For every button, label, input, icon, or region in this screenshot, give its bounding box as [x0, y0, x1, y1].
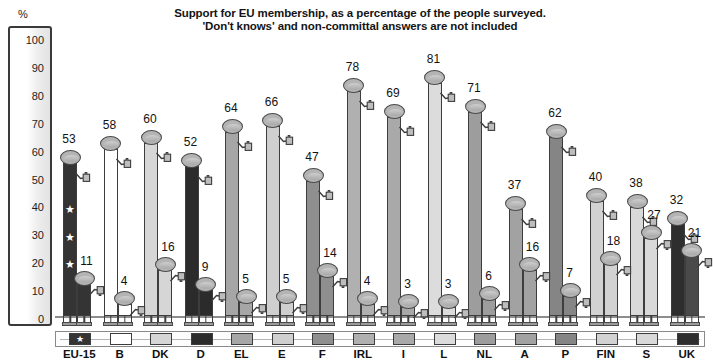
- country-group-NL[interactable]: 716: [464, 26, 505, 326]
- legend-item-P[interactable]: [555, 333, 577, 345]
- thumbs-up-icon-D: [197, 175, 213, 186]
- country-group-EL[interactable]: 645: [221, 26, 262, 326]
- legend-label-DK: DK: [152, 348, 169, 360]
- thumbs-down-icon-E: [292, 303, 308, 314]
- thumbs-up-icon-B: [116, 158, 132, 169]
- legend-label-B: B: [116, 348, 124, 360]
- star-icon: ★: [65, 232, 75, 242]
- support-head-icon-DK: [141, 130, 162, 145]
- support-value-B: 58: [103, 118, 116, 132]
- support-bar-EL[interactable]: [225, 132, 239, 316]
- against-head-icon-EU-15: [74, 271, 95, 286]
- legend-item-FIN[interactable]: [596, 333, 618, 345]
- thumbs-down-icon-FIN: [616, 265, 632, 276]
- support-head-icon-F: [303, 168, 324, 183]
- legend-item-EU-15[interactable]: ★: [69, 333, 91, 345]
- support-bar-D[interactable]: [185, 166, 199, 316]
- chart-title-line-1: Support for EU membership, as a percenta…: [150, 7, 570, 20]
- support-head-icon-P: [546, 124, 567, 139]
- country-group-DK[interactable]: 6016: [140, 26, 181, 326]
- support-bar-E[interactable]: [266, 126, 280, 316]
- legend-label-P: P: [561, 348, 569, 360]
- support-value-DK: 60: [143, 112, 156, 126]
- legend-item-I[interactable]: [393, 333, 415, 345]
- against-value-D: 9: [202, 260, 209, 274]
- support-value-L: 81: [427, 52, 440, 66]
- support-value-E: 66: [265, 95, 278, 109]
- against-head-icon-EL: [236, 289, 257, 304]
- against-value-DK: 16: [161, 240, 174, 254]
- thumbs-up-icon-A: [521, 218, 537, 229]
- legend-item-A[interactable]: [515, 333, 537, 345]
- support-bar-NL[interactable]: [468, 112, 482, 316]
- legend: ★: [55, 331, 705, 347]
- legend-label-FIN: FIN: [596, 348, 615, 360]
- legend-item-EL[interactable]: [231, 333, 253, 345]
- country-group-EU-15[interactable]: ★★★5311: [59, 26, 100, 326]
- legend-item-L[interactable]: [434, 333, 456, 345]
- legend-swatch-EU-15: ★: [69, 333, 91, 345]
- against-head-icon-FIN: [600, 251, 621, 266]
- support-bar-B[interactable]: [104, 149, 118, 316]
- legend-label-IRL: IRL: [353, 348, 372, 360]
- thumbs-up-icon-NL: [480, 121, 496, 132]
- y-axis-tick-50: 50: [32, 174, 44, 186]
- legend-item-E[interactable]: [272, 333, 294, 345]
- legend-item-NL[interactable]: [474, 333, 496, 345]
- country-group-IRL[interactable]: 784: [343, 26, 384, 326]
- legend-item-B[interactable]: [110, 333, 132, 345]
- legend-item-S[interactable]: [636, 333, 658, 345]
- support-bar-L[interactable]: [428, 83, 442, 316]
- country-group-A[interactable]: 3716: [505, 26, 546, 326]
- legend-swatch-FIN: [596, 333, 618, 345]
- support-bar-I[interactable]: [387, 117, 401, 316]
- legend-item-D[interactable]: [191, 333, 213, 345]
- support-bar-DK[interactable]: [144, 143, 158, 316]
- legend-swatch-EL: [231, 333, 253, 345]
- against-head-icon-P: [560, 283, 581, 298]
- legend-swatch-NL: [474, 333, 496, 345]
- y-axis: 1009080706050403020100: [8, 26, 52, 326]
- support-head-icon-I: [384, 104, 405, 119]
- country-group-F[interactable]: 4714: [302, 26, 343, 326]
- legend-label-S: S: [642, 348, 650, 360]
- thumbs-down-icon-A: [535, 271, 551, 282]
- thumbs-down-icon-I: [413, 308, 429, 319]
- support-value-S: 38: [629, 176, 642, 190]
- country-group-I[interactable]: 693: [383, 26, 424, 326]
- thumbs-up-icon-DK: [156, 152, 172, 163]
- axis-unit-symbol: %: [18, 8, 28, 20]
- against-value-P: 7: [566, 266, 573, 280]
- against-value-NL: 6: [485, 269, 492, 283]
- thumbs-up-icon-EL: [237, 141, 253, 152]
- y-axis-tick-20: 20: [32, 257, 44, 269]
- legend-swatch-S: [636, 333, 658, 345]
- against-value-EU-15: 11: [80, 254, 92, 268]
- legend-label-E: E: [278, 348, 286, 360]
- country-group-P[interactable]: 627: [545, 26, 586, 326]
- country-group-L[interactable]: 813: [424, 26, 465, 326]
- legend-label-F: F: [319, 348, 326, 360]
- against-head-icon-DK: [155, 257, 176, 272]
- support-value-F: 47: [305, 150, 318, 164]
- support-bar-IRL[interactable]: [347, 91, 361, 316]
- support-bar-F[interactable]: [306, 181, 320, 316]
- country-group-S[interactable]: 3827: [626, 26, 667, 326]
- legend-item-DK[interactable]: [150, 333, 172, 345]
- legend-swatch-E: [272, 333, 294, 345]
- support-head-icon-E: [262, 113, 283, 128]
- country-group-B[interactable]: 584: [100, 26, 141, 326]
- support-head-icon-B: [100, 136, 121, 151]
- country-group-FIN[interactable]: 4018: [586, 26, 627, 326]
- legend-item-IRL[interactable]: [353, 333, 375, 345]
- star-icon: ★: [65, 259, 75, 269]
- legend-item-F[interactable]: [312, 333, 334, 345]
- country-group-D[interactable]: 529: [181, 26, 222, 326]
- support-bar-EU-15[interactable]: ★★★: [63, 163, 77, 316]
- country-group-UK[interactable]: 3221: [667, 26, 708, 326]
- support-value-UK: 32: [670, 193, 683, 207]
- against-head-icon-A: [519, 257, 540, 272]
- country-group-E[interactable]: 665: [262, 26, 303, 326]
- legend-item-UK[interactable]: [677, 333, 699, 345]
